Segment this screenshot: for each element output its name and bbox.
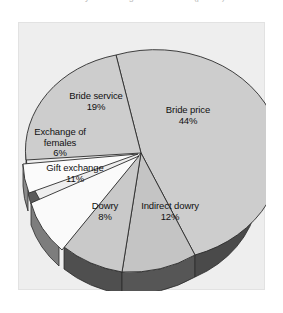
slice-label-dowry-percent: 8% bbox=[81, 212, 129, 223]
figure-panel: Bride price 44% Indirect dowry 12% Dowry… bbox=[18, 22, 265, 290]
slice-label-gift-exchange-percent: 11% bbox=[39, 174, 111, 185]
slice-label-dowry: Dowry 8% bbox=[81, 201, 129, 222]
slice-label-indirect-dowry-name: Indirect dowry bbox=[141, 200, 199, 211]
slice-label-bride-service: Bride service 19% bbox=[51, 91, 141, 112]
caption-text: Cross-cultural survey of marriage transa… bbox=[3, 0, 225, 2]
slice-label-bride-service-name: Bride service bbox=[69, 90, 123, 101]
pie-chart: Bride price 44% Indirect dowry 12% Dowry… bbox=[19, 23, 266, 291]
slice-label-bride-price-percent: 44% bbox=[145, 116, 231, 127]
slice-label-gift-exchange: Gift exchange 11% bbox=[39, 163, 111, 184]
slice-label-bride-service-percent: 19% bbox=[51, 102, 141, 113]
slice-label-exchange-of-females-name: Exchange of females bbox=[23, 127, 97, 148]
slice-label-bride-price-name: Bride price bbox=[166, 104, 210, 115]
slice-label-indirect-dowry-percent: 12% bbox=[127, 212, 213, 223]
slice-label-exchange-of-females: Exchange of females 6% bbox=[23, 127, 97, 159]
cut-off-caption-strip: Cross-cultural survey of marriage transa… bbox=[0, 0, 283, 11]
slice-label-dowry-name: Dowry bbox=[92, 200, 118, 211]
slice-label-indirect-dowry: Indirect dowry 12% bbox=[127, 201, 213, 222]
slice-label-bride-price: Bride price 44% bbox=[145, 105, 231, 126]
slice-label-gift-exchange-name-1: Gift exchange bbox=[39, 163, 111, 174]
slice-label-exchange-of-females-percent: 6% bbox=[23, 148, 97, 159]
